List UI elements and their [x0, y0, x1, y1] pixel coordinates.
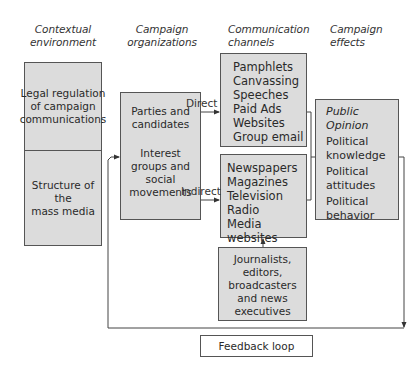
direct-label: Direct	[186, 97, 217, 109]
feedback-loop-label: Feedback loop	[200, 335, 313, 357]
indirect-label: Indirect	[181, 185, 221, 197]
feedback-return-line	[108, 157, 119, 328]
indirect-to-effects-line	[307, 157, 315, 200]
direct-to-effects-line	[307, 112, 311, 157]
effects-to-feedback-line	[399, 157, 404, 327]
